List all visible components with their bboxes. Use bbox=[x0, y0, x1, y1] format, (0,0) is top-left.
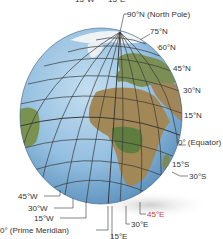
label-lon-45w: 45°W bbox=[18, 192, 38, 201]
label-lon-30e: 30°E bbox=[131, 220, 148, 229]
label-lat-30s: 30°S bbox=[189, 172, 206, 181]
label-lon-45e: 45°E bbox=[147, 210, 164, 219]
label-lat-75n: 75°N bbox=[150, 27, 168, 36]
label-prime-meridian: 0° (Prime Meridian) bbox=[0, 226, 69, 235]
label-lat-15n: 15°N bbox=[184, 111, 202, 120]
top-label-15w: 15°W bbox=[75, 0, 95, 4]
label-lat-15s: 15°S bbox=[172, 160, 189, 169]
label-lat-60n: 60°N bbox=[158, 43, 176, 52]
label-lon-15e: 15°E bbox=[110, 232, 127, 239]
label-north-pole: 90°N (North Pole) bbox=[127, 10, 190, 19]
label-lon-15w: 15°W bbox=[34, 214, 54, 223]
label-lon-30w: 30°W bbox=[28, 204, 48, 213]
globe bbox=[18, 28, 186, 206]
top-label-15e: 15°E bbox=[108, 0, 125, 4]
label-lat-30n: 30°N bbox=[183, 86, 201, 95]
label-equator: 0° (Equator) bbox=[178, 138, 221, 147]
label-lat-45n: 45°N bbox=[173, 64, 191, 73]
